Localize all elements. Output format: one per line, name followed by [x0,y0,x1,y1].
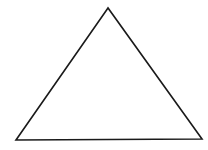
triangle-diagram [0,0,208,150]
diagram-canvas [0,0,208,150]
triangle-shape [16,8,202,140]
